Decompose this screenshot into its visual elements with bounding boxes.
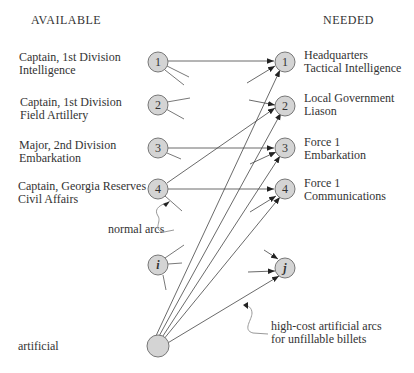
outgoing-stubs	[163, 66, 190, 290]
needed-node-3: 3	[275, 138, 295, 158]
artificial-arcs-pointer	[245, 306, 268, 334]
assignment-network: 1 2 3 4 i 1 2 3 4 j	[0, 0, 414, 373]
svg-text:1: 1	[155, 55, 161, 69]
incoming-stubs	[247, 66, 278, 272]
normal-arcs	[167, 61, 275, 189]
artificial-node	[147, 335, 169, 357]
normal-arcs-pointer	[156, 203, 174, 232]
svg-text:3: 3	[155, 141, 161, 155]
artificial-arcs	[155, 70, 281, 344]
svg-text:1: 1	[282, 55, 288, 69]
available-node-3: 3	[148, 138, 168, 158]
needed-node-1: 1	[275, 52, 295, 72]
available-node-1: 1	[148, 52, 168, 72]
svg-text:3: 3	[282, 141, 288, 155]
needed-node-j: j	[275, 258, 295, 278]
available-node-2: 2	[148, 95, 168, 115]
available-node-i: i	[148, 255, 168, 275]
needed-node-4: 4	[275, 179, 295, 199]
svg-text:2: 2	[282, 99, 288, 113]
needed-node-2: 2	[275, 96, 295, 116]
svg-text:4: 4	[282, 182, 288, 196]
svg-text:2: 2	[155, 98, 161, 112]
svg-text:4: 4	[155, 182, 161, 196]
available-node-4: 4	[148, 179, 168, 199]
